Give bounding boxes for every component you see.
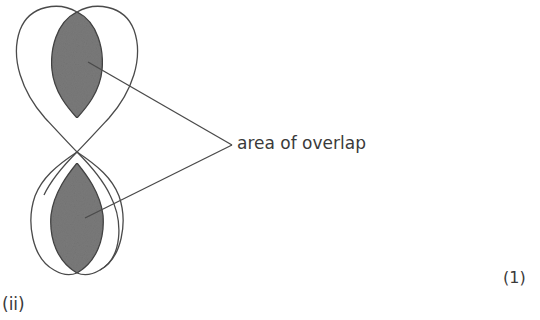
mark-allocation: (1) xyxy=(503,268,526,287)
question-part-label: (ii) xyxy=(2,294,25,314)
top-overlap-region xyxy=(52,12,103,118)
leader-line-bottom xyxy=(85,145,232,218)
leader-line-top xyxy=(88,62,232,145)
bottom-overlap-region xyxy=(51,163,104,273)
area-of-overlap-label: area of overlap xyxy=(237,133,366,153)
overlap-diagram xyxy=(0,0,540,320)
